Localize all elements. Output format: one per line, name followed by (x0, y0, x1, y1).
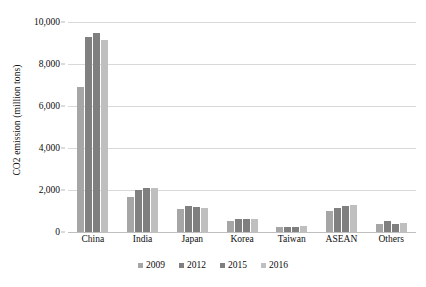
y-tick-mark (61, 64, 65, 65)
bar (85, 37, 92, 232)
plot-area (68, 22, 416, 232)
x-tick-label: Others (366, 234, 416, 244)
legend-swatch-icon (138, 263, 143, 268)
bar (177, 209, 184, 232)
bar-group (217, 22, 267, 232)
bar (392, 224, 399, 232)
y-tick-mark (61, 190, 65, 191)
bar (276, 227, 283, 232)
bar (201, 208, 208, 232)
legend-label: 2012 (187, 260, 206, 270)
legend-item[interactable]: 2016 (261, 260, 288, 270)
bar-group (317, 22, 367, 232)
y-tick-label: 8,000 (39, 59, 60, 69)
y-tick-label: 6,000 (39, 101, 60, 111)
bar (326, 211, 333, 232)
bar (350, 205, 357, 232)
bar (185, 206, 192, 232)
bar-group (68, 22, 118, 232)
legend-item[interactable]: 2015 (220, 260, 247, 270)
legend-label: 2009 (146, 260, 165, 270)
bar (284, 227, 291, 232)
bar-group (267, 22, 317, 232)
bar (227, 221, 234, 232)
y-tick-label: 0 (55, 227, 60, 237)
bar (151, 188, 158, 232)
legend-label: 2015 (228, 260, 247, 270)
bar (135, 190, 142, 232)
bar (251, 219, 258, 232)
bar (334, 208, 341, 232)
x-tick-label: China (68, 234, 118, 244)
x-tick-label: ASEAN (317, 234, 367, 244)
x-tick-label: Taiwan (267, 234, 317, 244)
y-tick-mark (61, 232, 65, 233)
legend-swatch-icon (179, 263, 184, 268)
legend-item[interactable]: 2009 (138, 260, 165, 270)
co2-emission-bar-chart: CO2 emission (million tons) 02,0004,0006… (0, 0, 426, 287)
bar (300, 226, 307, 232)
bar (342, 206, 349, 232)
bar (193, 207, 200, 232)
bar (400, 223, 407, 232)
bar (101, 40, 108, 232)
legend-swatch-icon (220, 263, 225, 268)
x-axis-tick-labels: ChinaIndiaJapanKoreaTaiwanASEANOthers (68, 234, 416, 244)
bar (127, 197, 134, 232)
x-tick-label: India (118, 234, 168, 244)
y-tick-label: 4,000 (39, 143, 60, 153)
bar (93, 33, 100, 233)
bar (77, 87, 84, 232)
axis-baseline (68, 232, 416, 233)
bar (235, 219, 242, 232)
legend-swatch-icon (261, 263, 266, 268)
legend-item[interactable]: 2012 (179, 260, 206, 270)
chart-legend: 2009201220152016 (0, 260, 426, 270)
bar (376, 224, 383, 232)
legend-label: 2016 (269, 260, 288, 270)
y-tick-mark (61, 148, 65, 149)
y-axis-title-text: CO2 emission (million tons) (12, 64, 22, 175)
x-tick-label: Japan (167, 234, 217, 244)
bar-group (118, 22, 168, 232)
y-tick-label: 10,000 (34, 17, 60, 27)
bar (143, 188, 150, 232)
y-tick-mark (61, 106, 65, 107)
y-tick-mark (61, 22, 65, 23)
bar (243, 219, 250, 232)
bar (384, 221, 391, 232)
bar-groups (68, 22, 416, 232)
bar-group (167, 22, 217, 232)
y-tick-label: 2,000 (39, 185, 60, 195)
bar-group (366, 22, 416, 232)
bar (292, 227, 299, 232)
x-tick-label: Korea (217, 234, 267, 244)
y-axis-tick-labels: 02,0004,0006,0008,00010,000 (24, 22, 64, 232)
